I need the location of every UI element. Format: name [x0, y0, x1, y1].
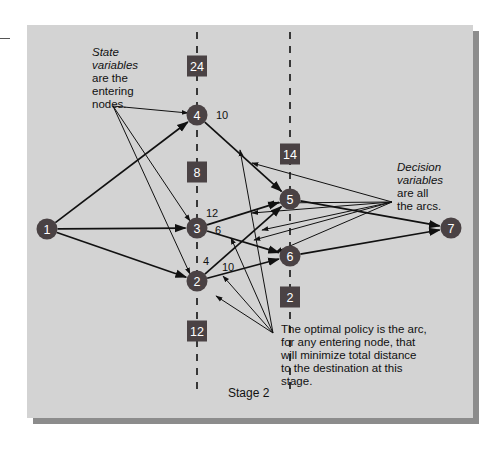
distance-box: 12: [187, 321, 207, 342]
annotation-line: will minimize total distance: [281, 349, 427, 362]
optimal-policy-pointer: [223, 276, 273, 333]
distance-box-label: 12: [190, 325, 204, 339]
annotation-pointer-lines: [113, 106, 392, 333]
arc-4-5: [205, 122, 282, 191]
annotation-line: to the destination at this: [281, 362, 427, 375]
network-arcs: [55, 122, 439, 278]
optimal-policy-annotation: The optimal policy is the arc,for any en…: [281, 323, 427, 388]
node-3: 3: [187, 218, 208, 239]
node-1: 1: [37, 219, 58, 240]
annotation-line: State: [92, 46, 138, 59]
node-5: 5: [280, 189, 301, 210]
stage-network-svg: 24812142 1234567 10126410 Stage 2: [0, 0, 504, 449]
arc-distance-label: 10: [222, 261, 234, 273]
annotation-line: stage.: [281, 375, 427, 388]
arc-1-3: [57, 228, 185, 229]
distance-box-label: 14: [283, 148, 297, 162]
state-variables-pointer: [113, 106, 190, 274]
arc-distance-label: 4: [203, 255, 209, 267]
distance-box: 24: [187, 56, 207, 77]
distance-box-label: 24: [190, 60, 204, 74]
annotation-line: for any entering node, that: [281, 336, 427, 349]
network-diagram-figure: 24812142 1234567 10126410 Stage 2 Statev…: [0, 0, 504, 449]
arc-6-7: [300, 230, 439, 254]
arc-distance-label: 12: [206, 207, 218, 219]
node-label: 7: [448, 222, 455, 236]
node-label: 4: [194, 109, 201, 123]
arc-distance-label: 10: [216, 109, 228, 121]
decision-variables-annotation: Decisionvariablesare allthe arcs.: [397, 161, 443, 213]
state-variables-pointer: [113, 106, 190, 221]
annotation-line: are the: [92, 72, 138, 85]
node-4: 4: [187, 105, 208, 126]
node-6: 6: [280, 246, 301, 267]
annotation-line: entering: [92, 85, 138, 98]
distance-box: 2: [280, 287, 300, 308]
annotation-line: The optimal policy is the arc,: [281, 323, 427, 336]
arc-1-4: [55, 122, 187, 223]
optimal-policy-pointer: [240, 150, 273, 333]
annotation-line: are all: [397, 187, 443, 200]
node-label: 5: [287, 193, 294, 207]
annotation-line: variables: [397, 174, 443, 187]
annotation-line: the arcs.: [397, 200, 443, 213]
arc-distance-label: 6: [215, 224, 221, 236]
annotation-line: Decision: [397, 161, 443, 174]
optimal-policy-pointer: [231, 238, 273, 333]
annotation-line: variables: [92, 59, 138, 72]
node-7: 7: [441, 218, 462, 239]
distance-box-label: 8: [194, 166, 201, 180]
arc-1-2: [57, 232, 186, 277]
stage-label: Stage 2: [228, 386, 270, 400]
node-label: 1: [44, 223, 51, 237]
node-label: 2: [194, 275, 201, 289]
node-2: 2: [187, 271, 208, 292]
node-label: 3: [194, 222, 201, 236]
annotation-line: nodes.: [92, 98, 138, 111]
state-variables-annotation: Statevariablesare theenteringnodes.: [92, 46, 138, 111]
distance-box: 14: [280, 144, 300, 165]
distance-box: 8: [187, 162, 207, 183]
node-label: 6: [287, 250, 294, 264]
distance-box-label: 2: [287, 291, 294, 305]
